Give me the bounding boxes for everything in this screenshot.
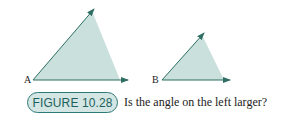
figure-number: FIGURE 10.28 [33,96,113,110]
angle-b-fill [162,35,224,80]
angle-b [162,33,230,80]
angle-a-fill [33,11,120,80]
angle-a [33,9,128,80]
vertex-label-a: A [24,75,31,85]
figure-caption: Is the angle on the left larger? [124,95,267,110]
figure-number-badge: FIGURE 10.28 [27,92,118,113]
vertex-label-b: B [152,75,159,85]
